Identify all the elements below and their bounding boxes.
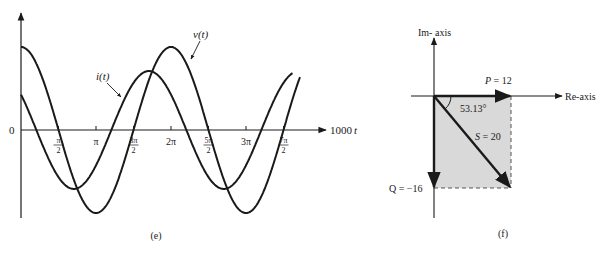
tick-label: 2π [166, 136, 176, 147]
figure-canvas: π2π3π22π5π23π7π2 0 1000t v(t) i(t) (e) I… [0, 0, 606, 253]
x-axis-label: 1000t [330, 124, 358, 136]
tick-label-den: 2 [282, 146, 286, 155]
i-label-pointer [107, 83, 121, 97]
waveform-plot: π2π3π22π5π23π7π2 0 1000t v(t) i(t) (e) [9, 13, 358, 242]
s-label: S = 20 [475, 131, 501, 142]
tick-label: π [93, 136, 98, 147]
tick-label-den: 2 [207, 146, 211, 155]
i-curve-label: i(t) [96, 70, 110, 83]
v-label-pointer [191, 41, 200, 59]
tick-label-den: 2 [57, 146, 61, 155]
power-triangle: Im- axis Re-axis P = 12 53.13° S = 20 Q … [389, 27, 596, 240]
re-axis-label: Re-axis [565, 91, 596, 102]
caption-f: (f) [498, 228, 508, 240]
tick-label: 3π [241, 136, 251, 147]
im-axis-label: Im- axis [418, 27, 451, 38]
q-label: Q = −16 [389, 183, 423, 194]
v-curve-label: v(t) [193, 28, 209, 41]
angle-label: 53.13° [460, 103, 487, 114]
caption-e: (e) [150, 230, 161, 242]
p-label: P = 12 [484, 75, 512, 86]
origin-label: 0 [9, 124, 15, 136]
tick-label-den: 2 [132, 146, 136, 155]
